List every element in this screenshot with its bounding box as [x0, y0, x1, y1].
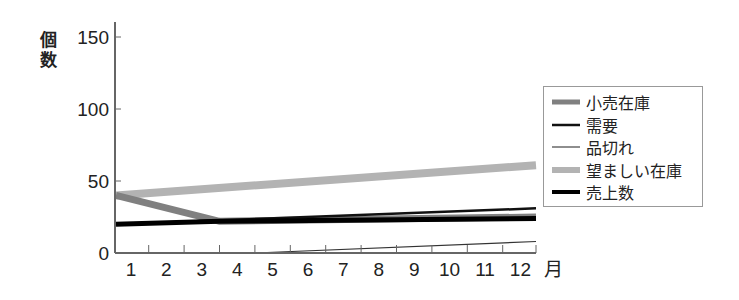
x-tick-label: 3	[197, 259, 208, 280]
y-tick-label: 0	[98, 243, 109, 264]
x-tick-label: 5	[267, 259, 278, 280]
x-tick-label: 11	[475, 259, 495, 280]
swatch-demand-icon	[552, 120, 580, 130]
legend-item-desired-stock: 望ましい在庫	[552, 159, 702, 182]
legend-item-retail-stock: 小売在庫	[552, 91, 702, 114]
series-lines	[116, 165, 536, 253]
swatch-stockout-icon	[552, 142, 580, 152]
y-tick-label: 50	[88, 171, 109, 192]
y-axis-title-1: 個	[39, 30, 57, 50]
x-tick-label: 6	[303, 259, 314, 280]
x-tick-label: 7	[338, 259, 349, 280]
x-tick-label: 4	[232, 259, 243, 280]
x-tick-label: 10	[439, 259, 460, 280]
swatch-sales-icon	[552, 187, 580, 197]
x-axis-title: 月	[544, 259, 563, 280]
legend-label: 需要	[586, 113, 618, 137]
legend-label: 望ましい在庫	[586, 158, 682, 182]
legend-label: 小売在庫	[586, 90, 650, 114]
series-line	[116, 165, 536, 195]
x-tick-label: 1	[126, 259, 137, 280]
x-tick-label: 2	[161, 259, 172, 280]
legend-item-stockout: 品切れ	[552, 136, 702, 159]
x-tick-label: 8	[374, 259, 385, 280]
legend-label: 売上数	[586, 180, 634, 204]
legend-item-demand: 需要	[552, 114, 702, 137]
y-tick-label: 150	[77, 27, 109, 48]
legend: 小売在庫 需要 品切れ 望ましい在庫 売上数	[543, 86, 703, 207]
legend-item-sales: 売上数	[552, 181, 702, 204]
swatch-retail-stock-icon	[552, 97, 580, 107]
x-tick-label: 9	[409, 259, 420, 280]
y-axis-title-2: 数	[40, 50, 58, 70]
y-tick-label: 100	[77, 99, 109, 120]
legend-label: 品切れ	[586, 135, 634, 159]
swatch-desired-stock-icon	[552, 165, 580, 175]
x-tick-label: 12	[510, 259, 531, 280]
